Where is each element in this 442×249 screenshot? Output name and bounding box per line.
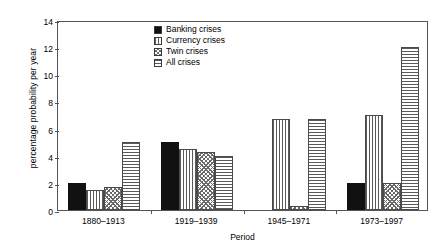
chart-legend: Banking crisesCurrency crisesTwin crises… — [152, 21, 227, 70]
bar-currency-crises — [86, 190, 104, 210]
y-axis-tick-label: 2 — [48, 180, 58, 190]
bar-currency-crises — [179, 149, 197, 210]
bar-twin-crises — [197, 152, 215, 210]
bar-group — [254, 22, 326, 210]
y-axis-tick-label: 8 — [48, 98, 58, 108]
bar-currency-crises — [272, 119, 290, 210]
y-axis-tick-label: 10 — [44, 71, 58, 81]
legend-item: All crises — [154, 57, 225, 68]
x-axis-tick-mark — [244, 210, 245, 214]
bar-groups — [58, 22, 427, 210]
bar-all-crises — [401, 47, 419, 210]
chart-figure: percentage probability per year 02468101… — [0, 0, 442, 249]
bar-all-crises — [122, 142, 140, 210]
y-axis-tick-label: 12 — [44, 44, 58, 54]
bar-group — [68, 22, 140, 210]
bar-twin-crises — [290, 206, 308, 210]
legend-label: Twin crises — [166, 47, 208, 56]
x-axis-title: Period — [57, 232, 428, 242]
legend-swatch-icon — [154, 37, 162, 45]
plot-area: 02468101214 — [57, 21, 428, 211]
bar-currency-crises — [365, 115, 383, 210]
x-axis-tick-label: 1919–1939 — [175, 216, 218, 226]
y-axis-tick-label: 4 — [48, 153, 58, 163]
bar-banking-crises — [161, 142, 179, 210]
legend-label: Banking crises — [166, 25, 221, 34]
x-axis-tick-label: 1973–1997 — [360, 216, 403, 226]
bar-twin-crises — [104, 187, 122, 210]
y-axis-tick-label: 0 — [48, 207, 58, 217]
legend-item: Currency crises — [154, 35, 225, 46]
legend-label: Currency crises — [166, 36, 225, 45]
legend-item: Twin crises — [154, 46, 225, 57]
legend-swatch-icon — [154, 59, 162, 67]
bar-all-crises — [308, 119, 326, 210]
legend-item: Banking crises — [154, 24, 225, 35]
x-axis-tick-label: 1880–1913 — [82, 216, 125, 226]
bar-twin-crises — [383, 183, 401, 210]
y-axis-tick-label: 14 — [44, 17, 58, 27]
x-axis-tick-label: 1945–1971 — [268, 216, 311, 226]
legend-swatch-icon — [154, 48, 162, 56]
y-axis-title: percentage probability per year — [28, 13, 38, 203]
bar-banking-crises — [68, 183, 86, 210]
x-axis-tick-mark — [336, 210, 337, 214]
bar-all-crises — [215, 156, 233, 210]
legend-label: All crises — [166, 58, 200, 67]
bar-banking-crises — [347, 183, 365, 210]
bar-group — [347, 22, 419, 210]
legend-swatch-icon — [154, 26, 162, 34]
x-axis-tick-mark — [151, 210, 152, 214]
y-axis-tick-label: 6 — [48, 126, 58, 136]
